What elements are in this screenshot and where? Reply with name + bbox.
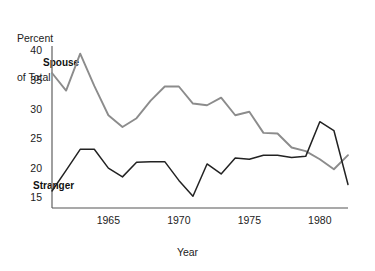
chart-plot-svg: [0, 0, 375, 271]
series-line-stranger: [52, 122, 348, 197]
chart-figure: Percent of Total 40 35 30 25 20 15 1965 …: [0, 0, 375, 271]
